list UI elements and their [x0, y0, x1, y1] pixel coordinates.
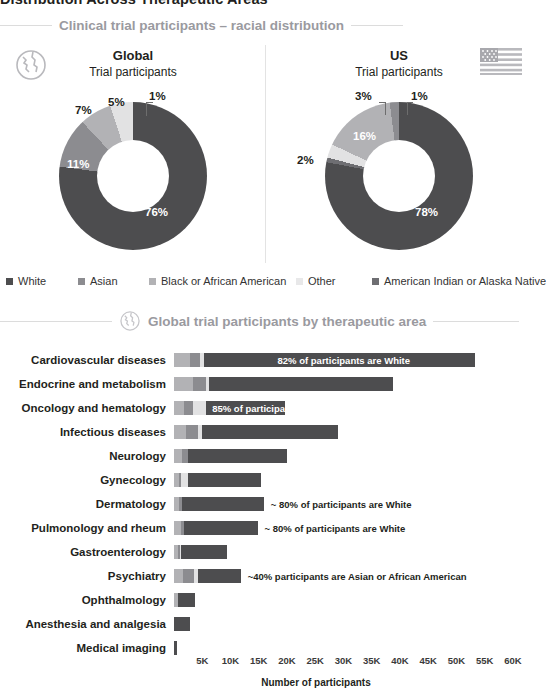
therapeutic-bar-chart: Cardiovascular diseases82% of participan…	[0, 348, 532, 660]
divider-left	[0, 25, 52, 26]
bar-segment-white	[202, 425, 338, 439]
donut-global-value-other: 5%	[108, 96, 125, 108]
donut-global-value-white: 76%	[145, 206, 168, 218]
legend-item-american-indian-or-alaska-native: American Indian or Alaska Native	[372, 275, 546, 287]
legend-item-other: Other	[296, 275, 336, 287]
bar-segment-white	[198, 569, 240, 583]
legend-label-asian: Asian	[90, 275, 118, 287]
x-axis-tick: 15K	[250, 655, 267, 666]
divider-right	[351, 25, 403, 26]
bar-segment-white	[188, 473, 261, 487]
bar-stack	[174, 521, 258, 535]
bar-row: Cardiovascular diseases82% of participan…	[0, 348, 532, 372]
panel-global: Global Trial participants 76% 11% 7% 5% …	[0, 40, 266, 268]
bar-segment-black-or-african-american	[174, 401, 184, 415]
bar-category-label: Gynecology	[0, 468, 166, 492]
donut-global-value-aian: 1%	[149, 90, 166, 102]
donut-us-value-black: 16%	[353, 130, 376, 142]
bar-stack	[174, 377, 393, 391]
donut-us-value-asian: 2%	[297, 154, 314, 166]
bar-category-label: Infectious diseases	[0, 420, 166, 444]
bar-stack	[174, 425, 338, 439]
bar-segment-white	[209, 377, 393, 391]
donut-global-leader-aian-v	[146, 102, 147, 116]
legend-swatch-american-indian-or-alaska-native	[372, 278, 379, 285]
panel-us: US Trial participants 78% 2% 16% 3% 1%	[266, 40, 532, 268]
bar-stack	[174, 473, 261, 487]
legend-label-other: Other	[308, 275, 336, 287]
legend-label-american-indian-or-alaska-native: American Indian or Alaska Native	[384, 275, 546, 287]
bar-segment-black-or-african-american	[174, 353, 190, 367]
x-axis-tick: 35K	[363, 655, 380, 666]
donut-global-value-black: 7%	[75, 104, 92, 116]
bar-annotation: ~40% participants are Asian or African A…	[248, 569, 467, 583]
bar-row: Endocrine and metabolism	[0, 372, 532, 396]
bar-category-label: Ophthalmology	[0, 588, 166, 612]
bar-category-label: Psychiatry	[0, 564, 166, 588]
bar-segment-white	[181, 545, 226, 559]
donut-panels: Global Trial participants 76% 11% 7% 5% …	[0, 40, 532, 268]
legend-item-asian: Asian	[78, 275, 118, 287]
bar-segment-asian	[186, 425, 198, 439]
donut-us-value-other: 3%	[355, 90, 372, 102]
x-axis-tick: 30K	[335, 655, 352, 666]
legend-swatch-other	[296, 278, 303, 285]
bar-segment-asian	[193, 377, 206, 391]
x-axis-tick: 10K	[222, 655, 239, 666]
x-axis-tick: 20K	[278, 655, 295, 666]
bar-stack	[174, 545, 227, 559]
legend-label-black-or-african-american: Black or African American	[161, 275, 286, 287]
bar-stack	[174, 593, 195, 607]
legend-label-white: White	[18, 275, 46, 287]
bar-annotation: 82% of participants are White	[278, 353, 411, 367]
globe-icon	[119, 310, 141, 332]
page-title: Distribution Across Therapeutic Areas	[0, 0, 532, 9]
x-axis-title: Number of participants	[0, 677, 532, 688]
bar-category-label: Dermatology	[0, 492, 166, 516]
bar-segment-asian	[190, 353, 200, 367]
bar-segment-black-or-african-american	[174, 449, 182, 463]
bar-category-label: Gastroenterology	[0, 540, 166, 564]
x-axis-tick: 50K	[448, 655, 465, 666]
donut-us-value-white: 78%	[415, 206, 438, 218]
bar-segment-white	[188, 449, 287, 463]
donut-us-leader-other-h	[379, 102, 386, 103]
legend: White Asian Black or African American Ot…	[0, 275, 532, 293]
divider-right-2	[433, 321, 519, 322]
x-axis-tick: 40K	[391, 655, 408, 666]
bar-segment-black-or-african-american	[174, 377, 193, 391]
bar-category-label: Neurology	[0, 444, 166, 468]
bar-category-label: Pulmonology and rheum	[0, 516, 166, 540]
bar-segment-black-or-african-american	[174, 425, 186, 439]
panel-global-title: Global	[0, 48, 266, 65]
bar-row: Oncology and hematology85% of participan…	[0, 396, 532, 420]
bar-segment-white	[178, 593, 195, 607]
donut-us-leader-aian-h	[407, 102, 413, 103]
panel-global-subtitle: Trial participants	[0, 65, 266, 80]
legend-swatch-white	[6, 278, 13, 285]
panel-us-subtitle: Trial participants	[266, 65, 532, 80]
bar-category-label: Anesthesia and analgesia	[0, 612, 166, 636]
x-axis-tick: 55K	[476, 655, 493, 666]
bar-row: Psychiatry~40% participants are Asian or…	[0, 564, 532, 588]
bar-stack	[174, 641, 177, 655]
bar-segment-white	[184, 521, 257, 535]
bar-row: Neurology	[0, 444, 532, 468]
bar-row: Gastroenterology	[0, 540, 532, 564]
bar-annotation: ~ 80% of participants are White	[271, 497, 412, 511]
bar-annotation: 85% of participants are White	[212, 401, 345, 415]
bar-annotation: ~ 80% of participants are White	[265, 521, 406, 535]
x-axis-tick: 60K	[504, 655, 521, 666]
donut-us-ring	[325, 102, 473, 250]
donut-global-ring	[59, 102, 207, 250]
legend-item-white: White	[6, 275, 46, 287]
section-title-therapeutic: Global trial participants by therapeutic…	[148, 314, 426, 329]
bar-segment-black-or-african-american	[174, 569, 183, 583]
legend-swatch-black-or-african-american	[149, 278, 156, 285]
donut-us: 78% 2% 16% 3% 1%	[319, 96, 479, 256]
divider-left-2	[0, 321, 112, 322]
donut-global: 76% 11% 7% 5% 1%	[53, 96, 213, 256]
panel-global-heading: Global Trial participants	[0, 48, 266, 80]
bar-segment-white	[182, 497, 264, 511]
bar-stack	[174, 617, 190, 631]
